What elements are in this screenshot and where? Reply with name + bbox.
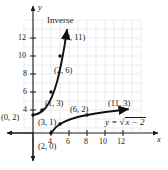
point-marker-11-3 xyxy=(121,108,124,111)
x-tick-label-12: 12 xyxy=(117,138,125,146)
point-label-3-11: (3, 11) xyxy=(63,33,85,42)
point-label-11-3: (11, 3) xyxy=(108,99,130,108)
radical-symbol: √x − 2 xyxy=(120,116,146,127)
equation-equals-symbol: = xyxy=(111,117,117,127)
point-marker-2-0 xyxy=(49,131,52,134)
radicand: x − 2 xyxy=(125,117,146,127)
inverse-curve-label: Inverse xyxy=(47,16,74,25)
graph-figure: y x 12 10 8 6 4 4 6 8 10 12 Inverse (3, … xyxy=(0,0,168,170)
point-label-2-6: (2, 6) xyxy=(54,66,72,75)
equation-label-sqrt: y = √x − 2 xyxy=(105,116,146,127)
x-tick-label-8: 8 xyxy=(84,138,88,146)
point-marker-0-2 xyxy=(31,113,34,116)
x-axis-label: x xyxy=(157,135,161,144)
equation-y-symbol: y xyxy=(105,117,109,127)
y-tick-label-6: 6 xyxy=(23,88,27,96)
point-marker-3-11 xyxy=(58,54,61,57)
point-label-0-2: (0, 2) xyxy=(1,113,19,122)
point-label-2-0: (2, 0) xyxy=(38,142,56,151)
point-label-1-3: (1, 3) xyxy=(45,99,63,108)
point-marker-1-3 xyxy=(40,108,43,111)
x-tick-label-10: 10 xyxy=(99,138,107,146)
y-tick-label-10: 10 xyxy=(18,52,26,60)
y-tick-label-8: 8 xyxy=(23,70,27,78)
y-tick-label-12: 12 xyxy=(18,34,26,42)
point-marker-3-1 xyxy=(58,122,61,125)
point-marker-2-6 xyxy=(49,90,52,93)
point-label-6-2: (6, 2) xyxy=(70,105,88,114)
y-tick-label-4: 4 xyxy=(23,106,27,114)
y-axis-label: y xyxy=(38,3,42,12)
x-tick-label-6: 6 xyxy=(66,138,70,146)
point-label-3-1: (3, 1) xyxy=(38,118,56,127)
